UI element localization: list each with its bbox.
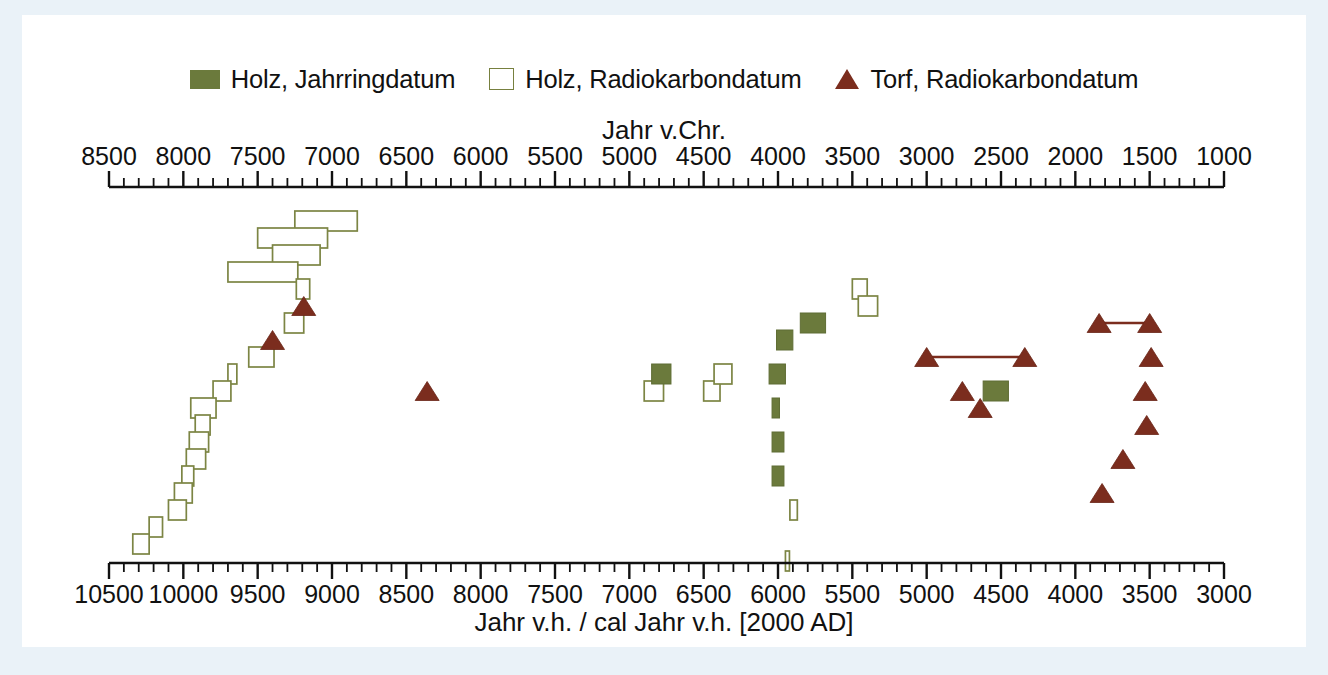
plot-area bbox=[22, 15, 1306, 647]
data-mark-triangle bbox=[1111, 450, 1135, 469]
data-mark-open-rect bbox=[790, 500, 797, 520]
data-mark-open-rect bbox=[168, 500, 186, 520]
data-mark-triangle bbox=[950, 382, 974, 401]
data-mark-filled-rect bbox=[652, 364, 671, 384]
data-mark-open-rect bbox=[133, 534, 149, 554]
data-mark-filled-rect bbox=[772, 398, 779, 418]
data-mark-open-rect bbox=[249, 347, 274, 367]
data-mark-open-rect bbox=[149, 517, 162, 537]
data-mark-open-rect bbox=[785, 551, 789, 571]
data-mark-open-rect bbox=[296, 279, 309, 299]
chart-page: Holz, Jahrringdatum Holz, Radiokarbondat… bbox=[0, 0, 1328, 675]
data-mark-filled-rect bbox=[800, 313, 825, 333]
data-mark-filled-rect bbox=[772, 432, 784, 452]
data-mark-triangle bbox=[415, 382, 439, 401]
data-mark-triangle bbox=[1133, 382, 1157, 401]
data-mark-open-rect bbox=[858, 296, 877, 316]
data-mark-open-rect bbox=[284, 313, 303, 333]
data-mark-open-rect bbox=[228, 262, 298, 282]
data-mark-open-rect bbox=[714, 364, 732, 384]
chart-panel: Holz, Jahrringdatum Holz, Radiokarbondat… bbox=[22, 15, 1306, 647]
data-mark-triangle bbox=[292, 297, 316, 316]
data-mark-filled-rect bbox=[772, 466, 784, 486]
data-mark-filled-rect bbox=[777, 330, 793, 350]
data-mark-triangle bbox=[1135, 416, 1159, 435]
data-mark-filled-rect bbox=[983, 381, 1008, 401]
data-mark-triangle bbox=[1139, 348, 1163, 367]
data-mark-filled-rect bbox=[769, 364, 785, 384]
bottom-axis-title: Jahr v.h. / cal Jahr v.h. [2000 AD] bbox=[22, 607, 1306, 638]
data-mark-triangle bbox=[1090, 484, 1114, 503]
data-mark-triangle bbox=[261, 331, 285, 350]
